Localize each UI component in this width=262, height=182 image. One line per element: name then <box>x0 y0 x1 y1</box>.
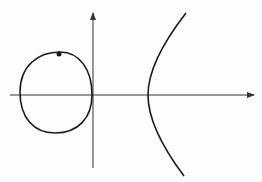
plot-canvas <box>0 0 262 182</box>
curve-oval-component <box>20 52 92 133</box>
elliptic-curve-figure <box>0 0 262 182</box>
marked-point <box>57 52 62 57</box>
